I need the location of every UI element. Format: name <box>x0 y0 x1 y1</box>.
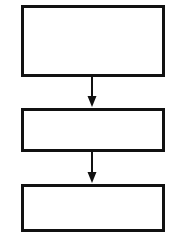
flowchart-node-3[interactable] <box>21 184 165 232</box>
connector-2-arrowhead <box>88 172 97 183</box>
flowchart-diagram <box>0 0 176 238</box>
